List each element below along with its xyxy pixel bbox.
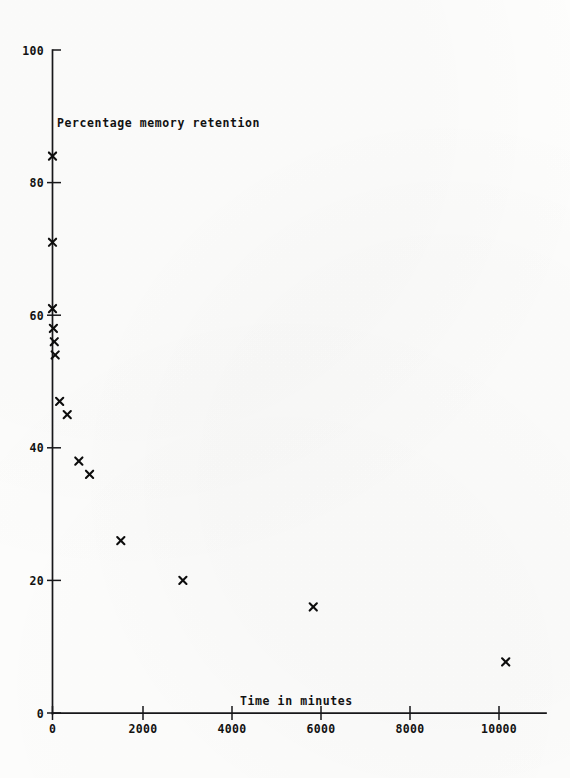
- x-tick-label-2000: 2000: [129, 722, 158, 736]
- y-tick-label-20: 20: [30, 574, 44, 588]
- y-axis-title: Percentage memory retention: [57, 116, 260, 130]
- x-axis-title: Time in minutes: [240, 694, 353, 708]
- x-tick-label-4000: 4000: [218, 722, 247, 736]
- data-point-marker: [502, 658, 509, 665]
- y-tick-label-60: 60: [30, 309, 44, 323]
- axes-group: [53, 50, 547, 714]
- data-point-marker: [64, 411, 71, 418]
- y-tick-label-40: 40: [30, 441, 44, 455]
- data-point-marker: [86, 471, 93, 478]
- data-point-marker: [310, 603, 317, 610]
- data-point-marker: [179, 577, 186, 584]
- y-tick-label-100: 100: [22, 44, 44, 58]
- x-tick-label-6000: 6000: [307, 722, 336, 736]
- data-point-marker: [117, 537, 124, 544]
- data-point-markers: [49, 152, 509, 665]
- x-tick-label-8000: 8000: [396, 722, 425, 736]
- data-point-marker: [75, 457, 82, 464]
- y-tick-label-0: 0: [37, 707, 44, 721]
- x-tick-labels: 0 2000 4000 6000 8000 10000: [49, 722, 517, 736]
- y-tick-label-80: 80: [30, 176, 44, 190]
- memory-retention-figure: 100 80 60 40 20 0 0 2000 4000 6000 8000 …: [0, 0, 570, 778]
- x-tick-label-10000: 10000: [481, 722, 517, 736]
- data-point-marker: [50, 325, 57, 332]
- scatter-plot-canvas: 100 80 60 40 20 0 0 2000 4000 6000 8000 …: [0, 0, 570, 778]
- y-tick-marks: [47, 50, 61, 713]
- data-point-marker: [56, 398, 63, 405]
- y-tick-labels: 100 80 60 40 20 0: [22, 44, 44, 721]
- x-tick-label-0: 0: [49, 722, 56, 736]
